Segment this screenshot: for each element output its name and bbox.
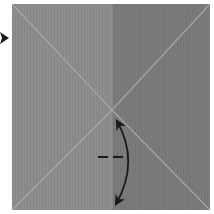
side-arrow-icon	[0, 32, 9, 44]
origami-diagram	[0, 0, 214, 214]
